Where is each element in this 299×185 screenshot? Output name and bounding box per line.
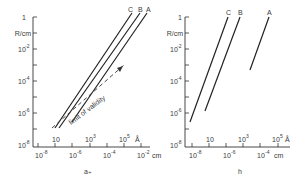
right-x-upper-unit: Å	[285, 135, 290, 143]
svg-text:5: 5	[280, 133, 283, 139]
figure: 1 R/cm 10 -2 10 -4 10 -6 10 -8 10	[0, 0, 299, 185]
right-curve-label-b: B	[238, 9, 243, 16]
left-y-label-4: 10 -4	[18, 75, 30, 85]
svg-text:-8: -8	[197, 149, 202, 155]
right-curve-c	[190, 17, 228, 122]
right-x-axis-title: h	[238, 168, 242, 175]
right-y-label-6: 10 -6	[170, 107, 182, 117]
left-x-ticks	[38, 143, 141, 147]
left-x-upper-1e3: 10 3	[85, 133, 96, 143]
svg-text:-2: -2	[145, 149, 150, 155]
right-y-axis-title: R/cm	[167, 30, 184, 37]
svg-text:-4: -4	[25, 75, 30, 81]
left-curve-label-b: B	[138, 6, 143, 13]
svg-text:10: 10	[223, 152, 231, 159]
svg-text:10: 10	[257, 152, 265, 159]
left-x-lower-1e-4: 10 -4	[103, 149, 116, 159]
left-y-label-8: 10 -8	[18, 139, 30, 149]
svg-text:10: 10	[103, 152, 111, 159]
left-curve-b	[59, 13, 140, 128]
left-y-ticks	[33, 17, 37, 129]
svg-text:-6: -6	[77, 149, 82, 155]
right-x-lower-1e-6: 10 -6	[223, 149, 236, 159]
svg-text:-8: -8	[177, 139, 182, 145]
left-y-label-0: 1	[22, 14, 26, 21]
left-curve-label-a: A	[146, 6, 151, 13]
left-x-upper-unit: Å	[135, 135, 140, 143]
left-x-lower-1e-6: 10 -6	[69, 149, 82, 159]
right-curve-label-c: C	[226, 9, 231, 16]
left-curve-a	[72, 13, 147, 122]
left-x-upper-1e5: 10 5	[119, 133, 130, 143]
right-x-upper-1e5: 10 5	[272, 133, 283, 143]
svg-text:10: 10	[119, 136, 127, 143]
arrow-icon	[117, 66, 123, 72]
left-chart: 1 R/cm 10 -2 10 -4 10 -6 10 -8 10	[15, 6, 162, 175]
svg-text:-4: -4	[177, 75, 182, 81]
limit-of-validity-line	[52, 65, 124, 128]
left-y-label-6: 10 -6	[18, 107, 30, 117]
right-curve-label-a: A	[267, 9, 272, 16]
right-y-label-8: 10 -8	[170, 139, 182, 149]
right-curve-a	[250, 17, 269, 70]
right-x-ticks	[192, 143, 278, 147]
right-y-ticks	[185, 17, 189, 129]
svg-text:10: 10	[69, 152, 77, 159]
left-x-lower-1e-8: 10 -8	[35, 149, 48, 159]
right-x-lower-1e-8: 10 -8	[189, 149, 202, 159]
svg-text:-6: -6	[177, 107, 182, 113]
svg-text:-6: -6	[231, 149, 236, 155]
svg-text:10: 10	[238, 136, 246, 143]
left-y-axis-title: R/cm	[15, 30, 32, 37]
svg-text:3: 3	[246, 133, 249, 139]
svg-text:5: 5	[127, 133, 130, 139]
svg-text:10: 10	[272, 136, 280, 143]
left-x-axis-title: a₊	[84, 168, 92, 175]
right-y-label-2: 10 -2	[170, 43, 182, 53]
svg-text:-6: -6	[25, 107, 30, 113]
right-axes	[185, 17, 290, 147]
right-x-lower-unit: cm	[274, 152, 284, 159]
right-x-upper-1e3: 10 3	[238, 133, 249, 143]
right-x-lower-1e-4: 10 -4	[257, 149, 270, 159]
left-y-label-2: 10 -2	[18, 43, 30, 53]
svg-text:-4: -4	[265, 149, 270, 155]
left-x-lower-unit: cm	[152, 152, 162, 159]
svg-text:-2: -2	[25, 43, 30, 49]
right-y-label-0: 1	[178, 14, 182, 21]
right-y-label-4: 10 -4	[170, 75, 182, 85]
left-curve-label-c: C	[128, 6, 133, 13]
svg-text:10: 10	[189, 152, 197, 159]
svg-text:10: 10	[137, 152, 145, 159]
svg-text:-2: -2	[177, 43, 182, 49]
svg-text:-4: -4	[111, 149, 116, 155]
left-x-upper-10: 10	[52, 136, 60, 143]
svg-text:-8: -8	[43, 149, 48, 155]
svg-text:10: 10	[85, 136, 93, 143]
right-x-upper-10: 10	[206, 136, 214, 143]
right-chart: 1 R/cm 10 -2 10 -4 10 -6 10 -8 10 10	[167, 9, 290, 175]
svg-text:-8: -8	[25, 139, 30, 145]
left-x-lower-1e-2: 10 -2	[137, 149, 150, 159]
svg-text:10: 10	[35, 152, 43, 159]
svg-text:3: 3	[93, 133, 96, 139]
